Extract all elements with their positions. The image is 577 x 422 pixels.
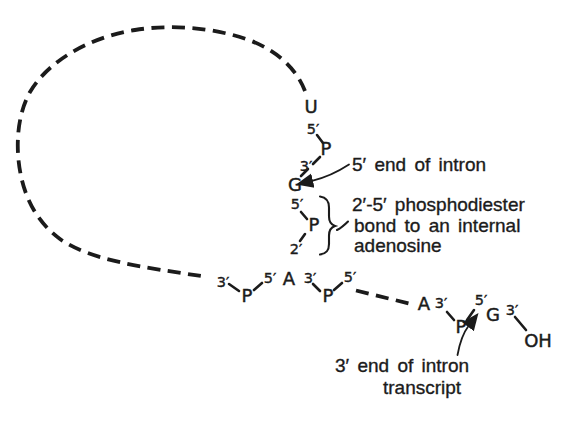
annotation-3-end-line1: 3′ end of intron	[335, 355, 469, 376]
hydroxyl-oh-label: OH	[524, 330, 552, 351]
bond-leftp-to-5	[254, 283, 262, 290]
prime-3-branch-right: 3′	[304, 270, 317, 286]
prime-2-above-a: 2′	[290, 241, 303, 257]
tail-prime-3-g: 3′	[506, 302, 519, 318]
curly-brace	[320, 197, 335, 255]
nucleotide-g-label: G	[288, 174, 302, 195]
arrow-5-end-of-intron	[312, 165, 349, 181]
rna-lariat-diagram: U 5′ P 3′ G 5′ P 2′ 3′ P 5′ A 3′ P 5′ A …	[0, 0, 577, 422]
bond-p-to-2	[300, 234, 305, 241]
prime-3-branch-left: 3′	[217, 274, 230, 290]
bond-g3-to-oh	[515, 317, 526, 330]
brace-connector-line	[337, 222, 348, 231]
tail-dashed-segment	[356, 291, 411, 305]
rna-lariat-figure: U 5′ P 3′ G 5′ P 2′ 3′ P 5′ A 3′ P 5′ A …	[0, 0, 577, 422]
bond-p-to-3	[313, 157, 320, 164]
tail-phosphate-p: P	[456, 316, 467, 337]
annotation-phosphodiester-line2: bond to an internal	[354, 215, 520, 236]
prime-5-below-g: 5′	[291, 196, 304, 212]
tail-prime-3-a: 3′	[435, 295, 448, 311]
prime-5-below-u: 5′	[307, 121, 320, 137]
annotation-5-end-of-intron: 5′ end of intron	[352, 154, 486, 175]
prime-5-branch-left: 5′	[264, 270, 277, 286]
bond-left3-to-p	[229, 284, 239, 291]
tail-g-label: G	[486, 304, 500, 325]
bond-rightp-to-5	[334, 283, 342, 290]
prime-5-branch-right: 5′	[344, 269, 357, 285]
phosphate-p-branch-left: P	[242, 285, 253, 306]
annotation-phosphodiester-line1: 2′-5′ phosphodiester	[352, 194, 525, 215]
branchpoint-adenosine-label: A	[283, 268, 296, 289]
prime-3-above-g: 3′	[300, 158, 313, 174]
bond-g5-to-p	[301, 212, 307, 219]
intron-loop-dashed-curve	[18, 27, 305, 277]
annotation-phosphodiester-line3: adenosine	[354, 235, 442, 256]
phosphate-p-branch-right: P	[323, 285, 334, 306]
phosphate-p-lower: P	[309, 214, 320, 235]
bond-tail-p-to-5g	[467, 310, 474, 320]
tail-a-label: A	[418, 293, 431, 314]
annotation-3-end-line2: transcript	[383, 377, 462, 398]
phosphate-p-upper: P	[321, 138, 332, 159]
nucleotide-u-label: U	[304, 96, 317, 117]
bond-tail-a3-to-p	[447, 312, 454, 320]
